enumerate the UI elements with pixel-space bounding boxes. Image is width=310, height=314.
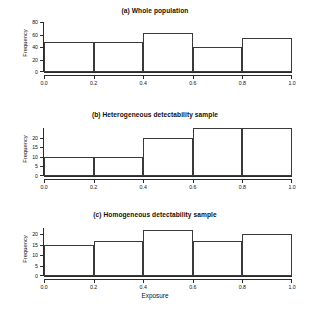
histogram-figure: (a) Whole population 020406080 Frequency… [0,0,310,314]
panel-b-title: (b) Heterogeneous detectability sample [0,111,310,118]
y-tick-label: 20 [32,57,38,63]
x-tick [94,179,95,183]
x-tick-label: 0.4 [140,80,147,86]
x-tick-label: 0.4 [140,184,147,190]
y-tick-label: 60 [32,32,38,38]
panel-b-baseline [44,176,292,177]
panel-a-title: (a) Whole population [0,7,310,14]
panel-whole-population: (a) Whole population 020406080 Frequency… [0,0,310,104]
histogram-bar [193,128,243,176]
histogram-bar [44,157,94,176]
histogram-bar [143,230,193,276]
y-tick-label: 15 [32,242,38,248]
panel-a-y-axis-title: Frequency [22,13,28,73]
x-tick-label: 1.0 [288,80,295,86]
panel-c-y-axis-title: Frequency [22,219,28,279]
y-tick-label: 0 [35,273,38,279]
x-tick-label: 0.0 [40,284,47,290]
x-tick [242,179,243,183]
y-tick-label: 10 [32,154,38,160]
x-tick-label: 0.0 [40,184,47,190]
x-axis-rule [44,75,292,76]
x-tick [94,75,95,79]
panel-c-x-axis: 0.00.20.40.60.81.0 [44,279,292,284]
panel-b-x-axis: 0.00.20.40.60.81.0 [44,179,292,184]
x-tick [193,279,194,283]
y-tick-label: 40 [32,44,38,50]
y-tick-label: 5 [35,163,38,169]
x-tick-label: 0.6 [189,284,196,290]
histogram-bar [94,42,144,72]
x-tick-label: 0.8 [239,80,246,86]
y-tick-label: 5 [35,263,38,269]
x-tick-label: 0.8 [239,184,246,190]
x-tick-label: 0.6 [189,184,196,190]
x-tick [291,179,292,183]
x-tick [242,75,243,79]
x-tick-label: 0.8 [239,284,246,290]
x-tick-label: 0.4 [140,284,147,290]
x-tick [44,279,45,283]
x-tick-label: 0.2 [90,80,97,86]
x-tick [143,75,144,79]
panel-heterogeneous-sample: (b) Heterogeneous detectability sample 0… [0,104,310,204]
y-tick-label: 20 [32,231,38,237]
histogram-bar [193,47,243,72]
x-tick-label: 0.2 [90,184,97,190]
x-tick [44,179,45,183]
x-tick [143,179,144,183]
histogram-bar [44,245,94,276]
histogram-bar [242,38,292,72]
histogram-bar [94,241,144,276]
panel-c-plot-area [44,228,292,276]
histogram-bar [143,33,193,72]
histogram-bar [242,234,292,276]
x-tick [291,279,292,283]
x-axis-rule [44,279,292,280]
panel-homogeneous-sample: (c) Homogeneous detectability sample 051… [0,204,310,314]
y-tick-label: 15 [32,144,38,150]
panel-a-x-axis: 0.00.20.40.60.81.0 [44,75,292,80]
x-tick [193,75,194,79]
panel-a-plot-area [44,22,292,72]
x-tick-label: 0.0 [40,80,47,86]
x-tick-label: 1.0 [288,284,295,290]
x-tick [44,75,45,79]
panel-c-title: (c) Homogeneous detectability sample [0,211,310,218]
x-tick [143,279,144,283]
y-tick-label: 20 [32,135,38,141]
y-tick-label: 80 [32,19,38,25]
histogram-bar [193,241,243,276]
y-tick-label: 10 [32,252,38,258]
y-tick-label: 0 [35,173,38,179]
panel-a-baseline [44,72,292,73]
histogram-bar [94,157,144,176]
x-tick [291,75,292,79]
histogram-bar [44,42,94,72]
panel-c-baseline [44,276,292,277]
histogram-bar [143,138,193,176]
panel-c-x-axis-title: Exposure [0,292,310,299]
histogram-bar [242,128,292,176]
x-tick-label: 0.2 [90,284,97,290]
panel-b-y-axis-title: Frequency [22,119,28,179]
x-tick-label: 0.6 [189,80,196,86]
x-tick [193,179,194,183]
x-tick [94,279,95,283]
y-tick-label: 0 [35,69,38,75]
x-axis-rule [44,179,292,180]
x-tick-label: 1.0 [288,184,295,190]
panel-b-plot-area [44,128,292,176]
x-tick [242,279,243,283]
